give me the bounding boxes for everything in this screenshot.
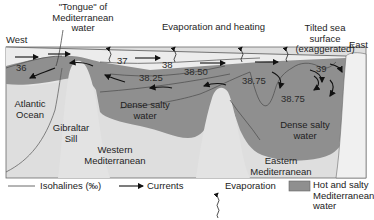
legend-currents-label: Currents (147, 181, 183, 192)
atlantic-ocean-label: Atlantic Ocean (6, 99, 54, 120)
legend-evaporation-swatch (217, 193, 219, 218)
legend-evaporation-label: Evaporation (225, 181, 276, 192)
legend-hot-salty-label: Hot and salty Mediterranean water (313, 180, 374, 212)
isohaline-38-50: 38.50 (184, 66, 208, 77)
eastern-mediterranean-label: Eastern Mediterranean (248, 156, 314, 177)
isohaline-38-75-a: 38.75 (242, 75, 266, 86)
isohaline-38-25: 38.25 (139, 72, 163, 83)
dense-salty-water-west-label: Dense salty water (110, 100, 180, 121)
isohaline-38-75-b: 38.75 (281, 93, 305, 104)
tilted-surface-label: Tilted sea surface (exaggerated) (292, 23, 358, 55)
tongue-label: "Tongue" of Mediterranean water (39, 2, 127, 34)
isohaline-37: 37 (117, 55, 128, 66)
isohaline-39: 39 (316, 63, 327, 74)
dense-salty-water-east-label: Dense salty water (272, 120, 338, 141)
legend-isohalines-label: Isohalines (‰) (40, 181, 101, 192)
isohaline-38: 38 (162, 59, 173, 70)
mediterranean-circulation-diagram: West East "Tongue" of Mediterranean wate… (0, 0, 374, 220)
legend-salty-water-swatch (289, 181, 310, 191)
west-label: West (6, 35, 27, 46)
gibraltar-sill-label: Gibraltar Sill (46, 123, 96, 144)
western-mediterranean-label: Western Mediterranean (76, 145, 154, 166)
evaporation-heating-label: Evaporation and heating (162, 22, 265, 33)
isohaline-36: 36 (16, 62, 27, 73)
